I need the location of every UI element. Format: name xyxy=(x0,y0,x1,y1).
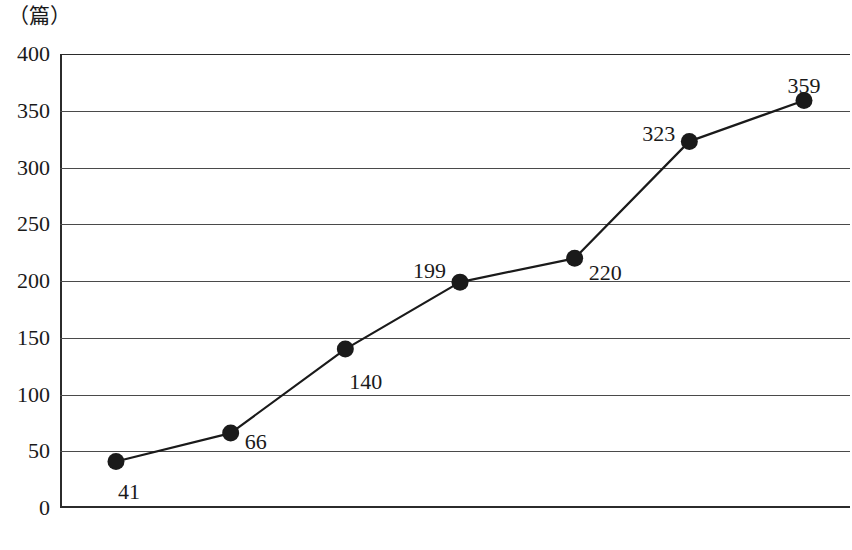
data-point-label: 323 xyxy=(642,123,675,145)
data-point-marker xyxy=(452,274,469,291)
y-axis-tick-label: 250 xyxy=(0,213,50,235)
y-axis-tick-label: 150 xyxy=(0,327,50,349)
y-axis-tick-label: 50 xyxy=(0,440,50,462)
data-point-label: 41 xyxy=(118,481,140,503)
line-chart: （篇） 050100150200250300350400 41661401992… xyxy=(0,0,852,550)
y-axis-unit-caption: （篇） xyxy=(8,2,71,30)
y-axis-tick-label: 400 xyxy=(0,43,50,65)
data-series xyxy=(60,54,850,508)
series-markers xyxy=(108,92,813,470)
plot-area: 050100150200250300350400 416614019922032… xyxy=(60,54,850,508)
y-axis-tick-label: 0 xyxy=(0,497,50,519)
y-axis-tick-label: 200 xyxy=(0,270,50,292)
y-axis-tick-label: 350 xyxy=(0,100,50,122)
data-point-label: 359 xyxy=(788,75,821,97)
data-point-label: 66 xyxy=(245,431,267,453)
y-axis-tick-label: 300 xyxy=(0,157,50,179)
data-point-marker xyxy=(566,250,583,267)
data-point-label: 220 xyxy=(589,262,622,284)
data-point-label: 140 xyxy=(349,371,382,393)
data-point-marker xyxy=(681,133,698,150)
data-point-marker xyxy=(108,453,125,470)
data-point-marker xyxy=(337,341,354,358)
data-point-marker xyxy=(222,425,239,442)
y-axis-tick-label: 100 xyxy=(0,384,50,406)
data-point-label: 199 xyxy=(413,260,446,282)
